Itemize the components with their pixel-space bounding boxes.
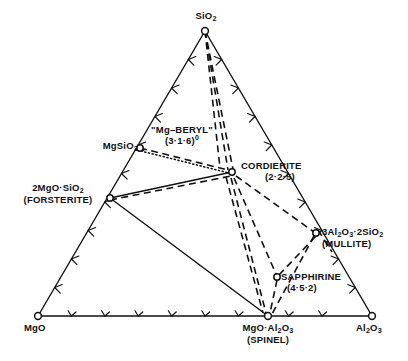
tie-cordierite-spinel-b [226, 177, 263, 313]
label-forsterite-formula: 2MgO·SiO2 [8, 182, 108, 194]
label-mg-beryl: "Mg–BERYL" (3·1·6)0 [133, 124, 231, 147]
label-al2o3: Al2O3 [356, 322, 382, 334]
label-sio2: SiO2 [186, 10, 226, 22]
tie-cordierite-sapphirine [234, 178, 276, 274]
node-sapphirine[interactable] [274, 274, 280, 280]
label-mgo: MgO [24, 322, 46, 333]
label-sapphirine-ratio: (4·5·2) [281, 282, 371, 293]
label-cordierite-ratio: (2·2·5) [241, 171, 351, 182]
node-spinel[interactable] [265, 313, 272, 320]
ticks-left-edge [55, 57, 196, 294]
tie-sio2-cordierite-b [205, 31, 234, 174]
tie-mgsio3-cordierite [140, 148, 228, 170]
ticks-bottom-edge [68, 311, 326, 316]
label-mullite: 3Al2O3·2SiO2 (MULLITE) [322, 226, 408, 249]
node-cordierite[interactable] [229, 169, 235, 175]
label-mg-beryl-name: "Mg–BERYL" [133, 124, 231, 135]
dotted-metastable-line [141, 151, 229, 173]
label-mgsio3: MgSiO3 [60, 140, 138, 152]
node-mgo[interactable] [35, 313, 42, 320]
label-mullite-formula: 3Al2O3·2SiO2 [322, 226, 408, 238]
node-sio2[interactable] [202, 28, 209, 35]
node-al2o3[interactable] [369, 313, 376, 320]
label-cordierite: CORDIERITE (2·2·5) [241, 160, 351, 182]
tie-forsterite-spinel [110, 198, 268, 316]
label-cordierite-name: CORDIERITE [241, 160, 351, 171]
label-spinel-name: (SPINEL) [218, 334, 318, 345]
node-mullite[interactable] [313, 230, 319, 236]
dotted-mgsio3-cordierite [141, 151, 229, 173]
label-forsterite-name: (FORSTERITE) [8, 194, 108, 205]
label-sapphirine: SAPPHIRINE (4·5·2) [281, 271, 371, 293]
tie-forsterite-cordierite-dashed [110, 176, 231, 200]
tie-forsterite-cordierite-solid [110, 172, 232, 198]
label-forsterite: 2MgO·SiO2 (FORSTERITE) [8, 182, 108, 205]
label-spinel-formula: MgO·Al2O3 [218, 322, 318, 334]
label-spinel: MgO·Al2O3 (SPINEL) [218, 322, 318, 345]
ternary-phase-diagram: SiO2 MgO Al2O3 MgSiO3 "Mg–BERYL" (3·1·6)… [0, 0, 408, 361]
label-sapphirine-name: SAPPHIRINE [281, 271, 371, 282]
label-mullite-name: (MULLITE) [322, 238, 408, 249]
label-mg-beryl-ratio: (3·1·6)0 [133, 135, 231, 147]
tie-cordierite-mullite [236, 176, 314, 232]
